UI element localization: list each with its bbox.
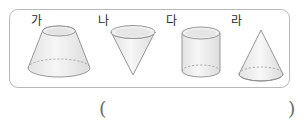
shape-item-ga: 가	[20, 10, 98, 89]
truncated-cone-icon	[20, 10, 98, 89]
shape-item-ra: 라	[222, 10, 290, 89]
shape-container-box: 가 나	[9, 9, 290, 88]
cylinder-icon	[160, 10, 226, 89]
shape-item-na: 나	[94, 10, 162, 89]
worksheet: 가 나	[0, 0, 304, 128]
answer-open-paren: (	[99, 94, 106, 122]
inverted-cone-icon	[94, 10, 162, 89]
answer-blank-row: ( )	[0, 94, 304, 124]
answer-close-paren: )	[288, 94, 295, 122]
shape-item-da: 다	[160, 10, 226, 89]
cone-icon	[222, 10, 290, 89]
